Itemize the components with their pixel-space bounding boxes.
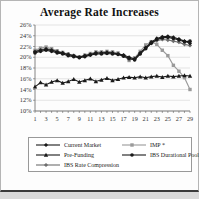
- y-axis-tick-label: 24%: [20, 32, 32, 39]
- y-axis-tick-label: 12%: [20, 96, 32, 103]
- y-axis-tick-label: 14%: [20, 86, 32, 93]
- legend-item: IBS Rate Compression: [35, 161, 119, 169]
- x-axis-tick-label: 1: [33, 115, 36, 122]
- x-axis-tick-label: 3: [45, 115, 48, 122]
- legend-label: IBS Rate Compression: [64, 162, 119, 168]
- chart-title: Average Rate Increases: [1, 6, 198, 18]
- x-axis-tick-label: 19: [132, 115, 138, 122]
- legend-square-glyph: [130, 143, 133, 146]
- x-axis-tick-label: 17: [120, 115, 126, 122]
- legend-item: IBS Durational Pooling: [121, 151, 199, 159]
- chart-card: Average Rate Increases 10%12%14%16%18%20…: [0, 0, 199, 192]
- series-triangle-marker: [38, 80, 42, 84]
- series-triangle-marker: [105, 76, 109, 80]
- series-line: [35, 42, 190, 90]
- legend-diamond-glyph: [44, 143, 48, 147]
- x-axis-tick-label: 21: [143, 115, 149, 122]
- series-square-marker: [161, 49, 164, 52]
- x-axis-tick-label: 7: [67, 115, 70, 122]
- y-axis-tick-label: 22%: [20, 43, 32, 50]
- y-axis-tick-label: 26%: [20, 21, 32, 28]
- legend-marker-triangle-icon: [35, 151, 61, 159]
- x-axis-tick-label: 25: [165, 115, 171, 122]
- series-triangle-marker: [72, 77, 76, 81]
- x-axis-tick-label: 29: [187, 115, 193, 122]
- x-axis-tick-label: 13: [98, 115, 104, 122]
- legend-label: IBS Durational Pooling: [150, 152, 199, 158]
- legend-item: IMP *: [121, 141, 199, 149]
- series-square-marker: [172, 64, 175, 67]
- legend-item: Pre-Funding: [35, 151, 119, 159]
- chart-legend: Current MarketIMP *Pre-FundingIBS Durati…: [28, 137, 192, 172]
- legend-label: Pre-Funding: [64, 152, 94, 158]
- series-square-marker: [177, 70, 180, 73]
- legend-circle-glyph: [130, 153, 134, 157]
- x-axis-tick-label: 27: [176, 115, 182, 122]
- y-axis-tick-label: 10%: [20, 107, 32, 114]
- x-axis-tick-label: 15: [109, 115, 115, 122]
- legend-item: Current Market: [35, 141, 119, 149]
- y-axis-tick-label: 20%: [20, 53, 32, 60]
- legend-label: Current Market: [64, 142, 101, 148]
- chart-plot: 10%12%14%16%18%20%22%24%26%1357911131517…: [1, 18, 199, 132]
- y-axis-tick-label: 18%: [20, 64, 32, 71]
- legend-marker-diamond-icon: [35, 161, 61, 169]
- legend-label: IMP *: [150, 142, 165, 148]
- x-axis-tick-label: 9: [78, 115, 81, 122]
- series-square-marker: [155, 43, 158, 46]
- legend-marker-diamond-icon: [35, 141, 61, 149]
- legend-marker-circle-icon: [121, 151, 147, 159]
- x-axis-tick-label: 11: [87, 115, 93, 122]
- legend-marker-square-icon: [121, 141, 147, 149]
- x-axis-tick-label: 23: [154, 115, 160, 122]
- x-axis-tick-label: 5: [56, 115, 59, 122]
- legend-diamond-glyph: [44, 163, 48, 167]
- series-square-marker: [166, 54, 169, 57]
- series-square-marker: [188, 88, 191, 91]
- y-axis-tick-label: 16%: [20, 75, 32, 82]
